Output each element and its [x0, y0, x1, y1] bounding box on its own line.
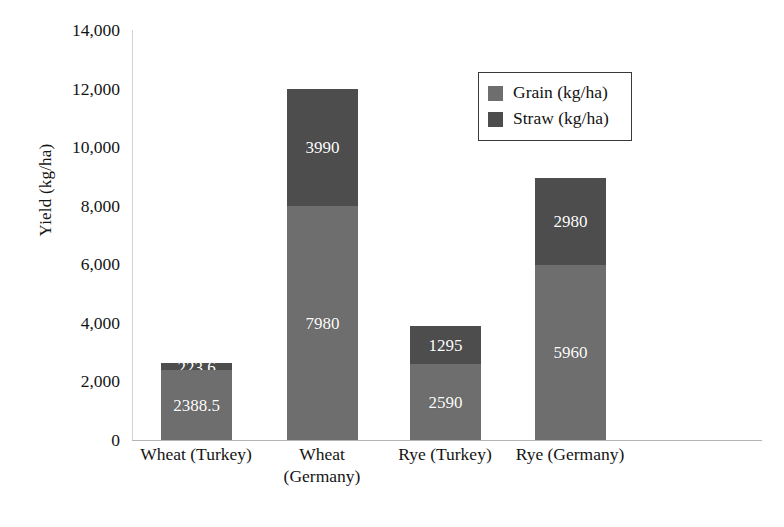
y-tick-label: 10,000 — [10, 139, 120, 157]
bar-value-label: 3990 — [306, 139, 340, 156]
bar-value-label: 2590 — [429, 394, 463, 411]
bar-value-label: 2980 — [554, 213, 588, 230]
x-tick-label-line: (Germany) — [232, 466, 412, 488]
y-tick-label: 14,000 — [10, 22, 120, 40]
bar-segment-straw[interactable]: 1295 — [410, 326, 481, 364]
bar-segment-straw[interactable]: 2980 — [535, 178, 606, 265]
grain-swatch-icon — [488, 86, 503, 101]
legend-item-straw[interactable]: Straw (kg/ha) — [488, 106, 622, 132]
x-axis-tick-labels: Wheat (Turkey) Wheat (Germany) Rye (Turk… — [132, 444, 762, 514]
bar-value-label: 5960 — [554, 344, 588, 361]
bar-segment-straw[interactable]: 223.6 — [161, 363, 232, 370]
bar-group[interactable]: 3990 7980 — [287, 89, 358, 440]
y-axis-title: Yield (kg/ha) — [36, 100, 56, 280]
bar-segment-grain[interactable]: 5960 — [535, 265, 606, 440]
y-tick-label: 2,000 — [10, 373, 120, 391]
bar-segment-grain[interactable]: 2388.5 — [161, 370, 232, 440]
bar-value-label: 7980 — [306, 315, 340, 332]
y-tick-label: 8,000 — [10, 198, 120, 216]
x-tick-label-line: Rye (Germany) — [480, 444, 660, 466]
bar-segment-straw[interactable]: 3990 — [287, 89, 358, 206]
x-tick-label-rye-germany: Rye (Germany) — [480, 444, 660, 466]
y-tick-label: 6,000 — [10, 256, 120, 274]
bar-group[interactable]: 2980 5960 — [535, 178, 606, 440]
plot-area: 223.6 2388.5 3990 7980 1295 — [132, 30, 762, 440]
bar-group[interactable]: 223.6 2388.5 — [161, 363, 232, 440]
stacked-bar-chart: Yield (kg/ha) 14,000 12,000 10,000 8,000… — [0, 0, 784, 527]
y-tick-label: 12,000 — [10, 81, 120, 99]
straw-swatch-icon — [488, 112, 503, 127]
bar-segment-grain[interactable]: 7980 — [287, 206, 358, 440]
legend-item-grain[interactable]: Grain (kg/ha) — [488, 80, 622, 106]
bars-layer: 223.6 2388.5 3990 7980 1295 — [132, 30, 762, 440]
y-tick-label: 0 — [10, 432, 120, 450]
legend-label: Grain (kg/ha) — [513, 84, 608, 102]
x-axis-line — [132, 440, 762, 441]
y-tick-label: 4,000 — [10, 315, 120, 333]
bar-value-label: 1295 — [429, 337, 463, 354]
legend-label: Straw (kg/ha) — [513, 110, 609, 128]
chart-legend: Grain (kg/ha) Straw (kg/ha) — [478, 72, 632, 141]
bar-group[interactable]: 1295 2590 — [410, 326, 481, 440]
bar-segment-grain[interactable]: 2590 — [410, 364, 481, 440]
bar-value-label: 2388.5 — [173, 397, 220, 414]
